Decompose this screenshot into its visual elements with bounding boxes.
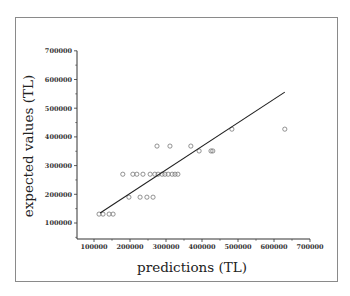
data-points [97,127,287,216]
data-point [141,172,145,176]
y-tick-label: 400000 [45,133,73,141]
y-tick-label: 200000 [45,191,73,199]
data-point [176,172,180,176]
y-tick-label: 700000 [45,47,73,55]
data-point [155,144,159,148]
x-tick-label: 600000 [260,243,288,251]
data-point [148,172,152,176]
axes: 1000002000003000004000005000006000007000… [45,47,324,251]
y-tick-label: 300000 [45,162,73,170]
fit-line [100,92,285,213]
x-tick-label: 400000 [188,243,216,251]
y-tick-label: 500000 [45,105,73,113]
regression-line [100,92,285,213]
x-tick-label: 700000 [296,243,324,251]
x-tick-label: 100000 [80,243,108,251]
data-point [283,127,287,131]
x-axis-title: predictions (TL) [137,259,247,275]
data-point [138,195,142,199]
data-point [189,144,193,148]
data-point [151,195,155,199]
data-point [145,195,149,199]
x-tick-label: 200000 [116,243,144,251]
x-tick-label: 500000 [224,243,252,251]
data-point [168,144,172,148]
y-axis-title: expected values (TL) [20,75,36,218]
y-tick-label: 100000 [45,219,73,227]
data-point [121,172,125,176]
x-tick-label: 300000 [152,243,180,251]
scatter-chart: 1000002000003000004000005000006000007000… [0,0,350,296]
y-tick-label: 600000 [45,76,73,84]
